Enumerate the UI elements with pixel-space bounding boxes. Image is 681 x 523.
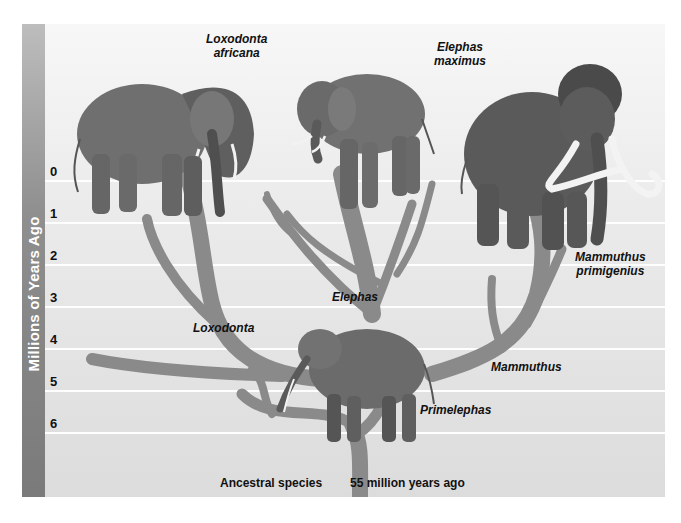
species-genus: Loxodonta [206, 32, 267, 46]
african-elephant-illustration [74, 84, 254, 216]
primelephas-illustration [280, 329, 434, 442]
species-label-elephas-maximus: Elephas maximus [434, 40, 486, 68]
asian-elephant-illustration [292, 74, 434, 209]
woolly-mammoth-illustration [461, 64, 659, 250]
species-label-loxodonta-africana: Loxodonta africana [206, 32, 267, 60]
phylogeny-panel: Millions of Years Ago 0 1 2 3 4 5 6 [22, 24, 665, 497]
species-genus: Elephas [434, 40, 486, 54]
species-epithet: africana [206, 46, 267, 60]
species-epithet: maximus [434, 54, 486, 68]
species-label-mammuthus-primigenius: Mammuthus primigenius [575, 250, 646, 278]
lineage-label-mammuthus: Mammuthus [491, 360, 562, 374]
species-epithet: primigenius [575, 264, 646, 278]
lineage-label-primelephas: Primelephas [420, 403, 491, 417]
species-genus: Mammuthus [575, 250, 646, 264]
lineage-label-elephas: Elephas [332, 290, 378, 304]
lineage-label-loxodonta: Loxodonta [193, 321, 254, 335]
phylogenetic-tree [22, 24, 665, 497]
caption-age: 55 million years ago [350, 476, 465, 490]
caption-ancestral-species: Ancestral species [220, 476, 322, 490]
